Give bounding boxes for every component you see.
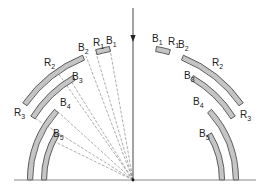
label-left-r3: R3 bbox=[14, 107, 25, 120]
arrowhead-icon bbox=[130, 35, 135, 42]
diffraction-diagram: B1R1B2R2B3R3B4B5B1R1B2R2B3R3B4B5 bbox=[0, 0, 266, 192]
label-right-b2: B2 bbox=[178, 39, 189, 52]
label-left-b5: B5 bbox=[53, 128, 64, 141]
label-left-b2: B2 bbox=[78, 42, 89, 55]
label-right-b4: B4 bbox=[193, 96, 204, 109]
label-right-r2: R2 bbox=[212, 57, 223, 70]
label-right-r3: R3 bbox=[240, 109, 251, 122]
label-right-b1: B1 bbox=[152, 33, 163, 46]
ray-line bbox=[57, 111, 133, 180]
origin-point bbox=[132, 179, 135, 182]
arc-segment-b1-r1 bbox=[156, 46, 171, 54]
label-left-b3: B3 bbox=[72, 71, 83, 84]
arc-segment-b5-inner bbox=[207, 133, 225, 180]
ray-line bbox=[110, 49, 133, 180]
ray-line bbox=[86, 56, 133, 180]
diagram-canvas: B1R1B2R2B3R3B4B5B1R1B2R2B3R3B4B5 bbox=[0, 0, 266, 192]
label-right-b5: B5 bbox=[199, 128, 210, 141]
ray-line bbox=[58, 73, 133, 180]
label-left-b1: B1 bbox=[106, 35, 117, 48]
ray-line bbox=[69, 78, 133, 180]
arc-segment-b5-inner bbox=[41, 133, 59, 180]
ray-line bbox=[96, 53, 133, 180]
label-left-r2: R2 bbox=[44, 57, 55, 70]
incident-beam-arrow-icon bbox=[130, 8, 135, 181]
label-right-b3: B3 bbox=[184, 70, 195, 83]
label-left-r1: R1 bbox=[93, 37, 104, 50]
label-left-b4: B4 bbox=[60, 97, 71, 110]
